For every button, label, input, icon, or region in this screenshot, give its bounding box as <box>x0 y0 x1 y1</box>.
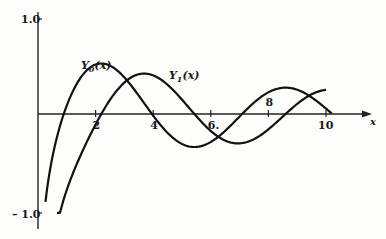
bessel-plot: 1.0 – 1.0 246.810 Y0(x) Y1(x) x <box>0 0 386 239</box>
x-tick-label-8: 8 <box>265 96 273 109</box>
y-tick-label-bottom: – 1.0 <box>12 208 41 221</box>
y1-label: Y1(x) <box>169 69 199 84</box>
y1-curve <box>57 74 326 213</box>
chart: 1.0 – 1.0 246.810 Y0(x) Y1(x) x <box>0 0 386 239</box>
y0-curve <box>45 63 331 201</box>
x-tick-label-10: 10 <box>318 119 334 132</box>
y-tick-label-top: 1.0 <box>21 13 40 26</box>
x-axis-label: x <box>369 116 377 127</box>
y0-label: Y0(x) <box>81 59 111 74</box>
